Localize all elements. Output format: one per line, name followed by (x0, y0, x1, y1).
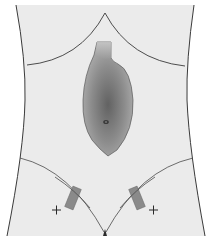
diagram-canvas (0, 0, 210, 237)
umbilicus-center (105, 121, 107, 123)
abdominal-diagram (0, 0, 210, 237)
stomach-neck (95, 42, 111, 59)
